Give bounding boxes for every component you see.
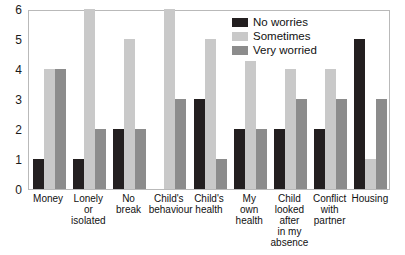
plot-area <box>28 10 390 190</box>
bar <box>314 129 325 189</box>
y-axis: 0123456 <box>0 10 26 190</box>
bar <box>325 69 336 189</box>
x-axis-label-line: Conflict <box>310 193 350 204</box>
x-axis-label-line: My <box>229 193 269 204</box>
x-axis-label-line: Housing <box>350 193 390 204</box>
y-axis-tick-label: 2 <box>15 124 22 136</box>
bar <box>73 159 84 189</box>
x-axis-label-line: Money <box>28 193 68 204</box>
x-axis-label-line: break <box>108 204 148 215</box>
bar <box>84 9 95 189</box>
legend-item: Sometimes <box>232 30 317 43</box>
bar <box>175 99 186 189</box>
legend-label: Very worried <box>253 45 317 57</box>
legend-label: No worries <box>253 17 308 29</box>
x-axis-label-line: health <box>189 204 229 215</box>
bar <box>354 39 365 189</box>
legend-swatch-icon <box>232 18 248 27</box>
x-axis-label-line: health <box>229 215 269 226</box>
x-axis-label-line: isolated <box>68 215 108 226</box>
x-axis: MoneyLonelyorisolatedNobreakChild'sbehav… <box>28 193 390 253</box>
bar <box>113 129 124 189</box>
bar <box>44 69 55 189</box>
x-axis-label-line: looked <box>269 204 309 215</box>
bar <box>296 99 307 189</box>
x-axis-label-line: or <box>68 204 108 215</box>
chart-legend: No worriesSometimesVery worried <box>228 13 321 61</box>
bar <box>135 129 146 189</box>
bar-group <box>113 11 146 189</box>
legend-item: No worries <box>232 16 317 29</box>
x-axis-label-line: No <box>108 193 148 204</box>
bar-group <box>194 11 227 189</box>
y-axis-tick-label: 5 <box>15 34 22 46</box>
bar-group <box>354 11 387 189</box>
bar <box>245 39 256 189</box>
y-axis-tick-label: 0 <box>15 184 22 196</box>
y-axis-tick-label: 6 <box>15 4 22 16</box>
x-axis-label-line: Lonely <box>68 193 108 204</box>
bar <box>365 159 376 189</box>
x-axis-label-line: Child <box>269 193 309 204</box>
legend-swatch-icon <box>232 46 248 55</box>
bar <box>33 159 44 189</box>
bar <box>285 69 296 189</box>
bar-group <box>153 11 186 189</box>
bar <box>234 129 245 189</box>
x-axis-label-line: in my <box>269 226 309 237</box>
bar <box>216 159 227 189</box>
x-axis-category-label: Myownhealth <box>229 193 269 226</box>
legend-item: Very worried <box>232 44 317 57</box>
bar <box>376 99 387 189</box>
bar <box>55 69 66 189</box>
bar-chart: 0123456 No worriesSometimesVery worried … <box>0 0 405 255</box>
x-axis-category-label: Housing <box>350 193 390 204</box>
x-axis-label-line: after <box>269 215 309 226</box>
bar <box>124 39 135 189</box>
x-axis-category-label: Child'shealth <box>189 193 229 215</box>
x-axis-label-line: absence <box>269 237 309 248</box>
bar <box>194 99 205 189</box>
bar <box>274 129 285 189</box>
y-axis-tick-label: 4 <box>15 64 22 76</box>
x-axis-category-label: Nobreak <box>108 193 148 215</box>
x-axis-label-line: behaviour <box>149 204 189 215</box>
bar <box>164 9 175 189</box>
x-axis-label-line: Child's <box>189 193 229 204</box>
x-axis-category-label: Child'sbehaviour <box>149 193 189 215</box>
bar <box>336 99 347 189</box>
bars-container <box>29 11 389 189</box>
bar <box>256 129 267 189</box>
bar <box>205 39 216 189</box>
y-axis-tick-label: 3 <box>15 94 22 106</box>
legend-swatch-icon <box>232 32 248 41</box>
x-axis-category-label: Money <box>28 193 68 204</box>
legend-label: Sometimes <box>253 31 311 43</box>
x-axis-label-line: own <box>229 204 269 215</box>
x-axis-label-line: Child's <box>149 193 189 204</box>
y-axis-tick-label: 1 <box>15 154 22 166</box>
x-axis-category-label: Lonelyorisolated <box>68 193 108 226</box>
bar-group <box>73 11 106 189</box>
x-axis-label-line: partner <box>310 215 350 226</box>
x-axis-category-label: Childlookedafterin myabsence <box>269 193 309 248</box>
bar-group <box>33 11 66 189</box>
bar <box>95 129 106 189</box>
x-axis-category-label: Conflictwithpartner <box>310 193 350 226</box>
x-axis-label-line: with <box>310 204 350 215</box>
